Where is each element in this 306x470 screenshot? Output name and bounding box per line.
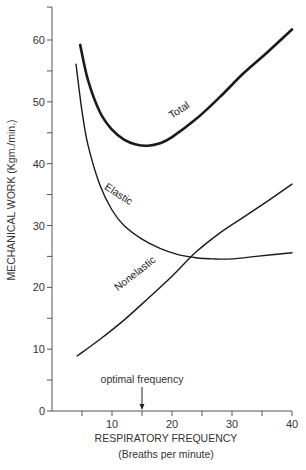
chart: 10203040 0102030405060 TotalElasticNonel… (0, 0, 306, 470)
x-axis-ticks: 10203040 (82, 411, 298, 430)
x-tick-label: 30 (226, 418, 238, 430)
x-tick-label: 20 (166, 418, 178, 430)
y-tick-label: 10 (33, 343, 45, 355)
y-tick-label: 0 (39, 405, 45, 417)
series-line-nonelastic (77, 184, 292, 356)
curve-label-total: Total (166, 99, 191, 121)
y-tick-label: 60 (33, 34, 45, 46)
series-line-total (80, 30, 292, 146)
curve-label-nonelastic: Nonelastic (112, 253, 158, 293)
x-axis-subtitle: (Breaths per minute) (118, 448, 214, 460)
arrow-down-icon (140, 404, 145, 410)
x-tick-label: 10 (106, 418, 118, 430)
y-tick-label: 50 (33, 96, 45, 108)
curve-labels: TotalElasticNonelastic (103, 99, 192, 293)
y-tick-label: 40 (33, 158, 45, 170)
series-line-elastic (76, 64, 292, 259)
y-axis-ticks: 0102030405060 (33, 34, 52, 417)
x-tick-label: 40 (286, 418, 298, 430)
y-tick-label: 20 (33, 281, 45, 293)
annotation-layer: optimal frequency (101, 373, 185, 410)
x-axis-title: RESPIRATORY FREQUENCY (95, 432, 238, 444)
y-axis-title: MECHANICAL WORK (Kgm./min.) (5, 119, 17, 280)
y-tick-label: 30 (33, 220, 45, 232)
optimal-frequency-annotation: optimal frequency (101, 373, 185, 385)
